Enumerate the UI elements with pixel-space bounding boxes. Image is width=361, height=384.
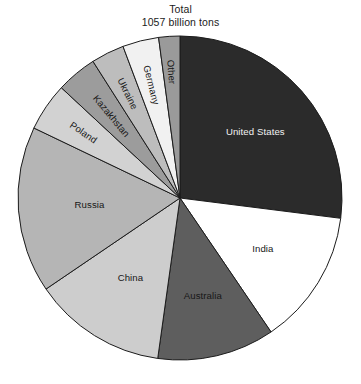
pie-label-other: Other <box>165 59 178 85</box>
pie-slices-group <box>18 36 342 360</box>
pie-label-united-states: United States <box>226 126 285 137</box>
pie-label-china: China <box>118 272 144 283</box>
pie-label-australia: Australia <box>184 290 223 301</box>
pie-label-india: India <box>252 243 274 254</box>
pie-chart-figure: Total 1057 billion tons United StatesInd… <box>0 0 361 384</box>
pie-svg: United StatesIndiaAustraliaChinaRussiaPo… <box>0 0 361 384</box>
pie-label-russia: Russia <box>75 199 105 210</box>
